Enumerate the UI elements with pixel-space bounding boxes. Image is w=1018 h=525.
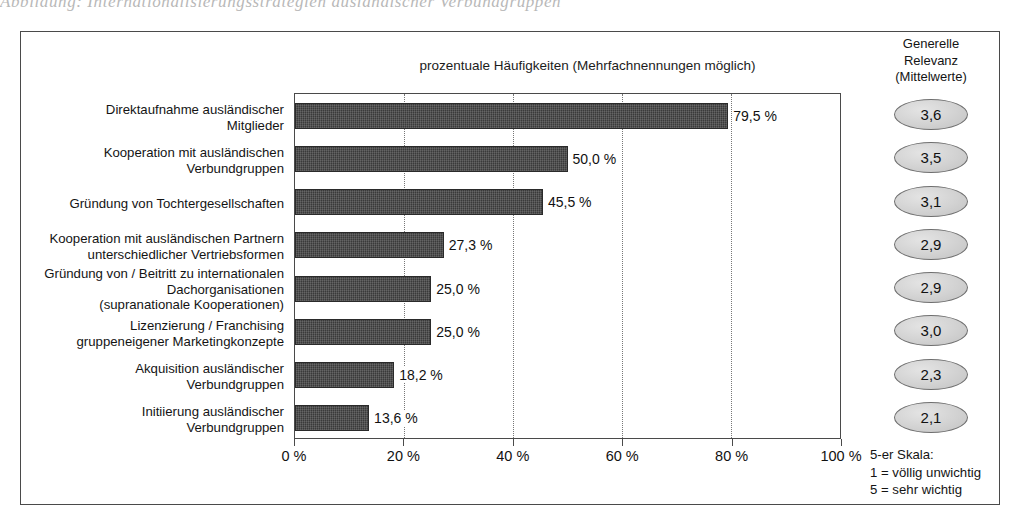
bar	[295, 103, 728, 129]
relevance-value-badge: 2,9	[894, 229, 968, 260]
relevance-value-group: 3,63,53,12,92,93,02,32,1	[866, 93, 996, 439]
bar-value-label: 13,6 %	[373, 410, 419, 426]
x-tick-label: 100 %	[820, 448, 861, 464]
x-tick	[513, 439, 514, 446]
bar-value-label: 45,5 %	[547, 194, 593, 210]
x-tick	[841, 439, 842, 446]
bar	[295, 146, 568, 172]
relevance-cell: 2,9	[866, 223, 996, 266]
category-label: Akquisition ausländischerVerbundgruppen	[19, 361, 284, 392]
bar-value-label: 25,0 %	[435, 281, 481, 297]
relevance-cell: 2,3	[866, 353, 996, 396]
bar	[295, 362, 394, 388]
scale-legend: 5-er Skala: 1 = völlig unwichtig 5 = seh…	[870, 446, 1018, 499]
x-tick	[403, 439, 404, 446]
relevance-cell: 2,1	[866, 396, 996, 439]
category-label: Initiierung ausländischerVerbundgruppen	[19, 404, 284, 435]
category-label: Kooperation mit ausländischenVerbundgrup…	[19, 145, 284, 176]
relevance-column-header: Generelle Relevanz (Mittelwerte)	[866, 36, 996, 86]
relevance-cell: 3,6	[866, 93, 996, 136]
relevance-value-badge: 3,0	[894, 315, 968, 346]
relevance-value-badge: 2,9	[894, 272, 968, 303]
scale-legend-line3: 5 = sehr wichtig	[870, 481, 1018, 499]
relevance-cell: 3,0	[866, 309, 996, 352]
bar-row: 13,6 %	[295, 397, 840, 440]
category-label: Kooperation mit ausländischen Partnernun…	[19, 231, 284, 262]
bar-row: 79,5 %	[295, 94, 840, 137]
category-label: Gründung von Tochtergesellschaften	[19, 196, 284, 212]
relevance-value-badge: 3,1	[894, 186, 968, 217]
plot-area: 79,5 %50,0 %45,5 %27,3 %25,0 %25,0 %18,2…	[294, 93, 841, 439]
relevance-cell: 3,5	[866, 136, 996, 179]
x-axis-tick-labels: 0 %20 %40 %60 %80 %100 %	[294, 448, 841, 468]
x-tick-label: 40 %	[496, 448, 529, 464]
x-tick	[732, 439, 733, 446]
figure-frame: prozentuale Häufigkeiten (Mehrfachnennun…	[20, 31, 1000, 505]
bar	[295, 405, 369, 431]
bar	[295, 189, 543, 215]
x-tick-label: 60 %	[606, 448, 639, 464]
relevance-cell: 3,1	[866, 180, 996, 223]
category-label-group: Direktaufnahme ausländischerMitglieder K…	[21, 93, 290, 439]
category-label: Direktaufnahme ausländischerMitglieder	[19, 102, 284, 133]
x-tick	[622, 439, 623, 446]
category-label: Lizenzierung / Franchisinggruppeneigener…	[19, 318, 284, 349]
bar-row: 25,0 %	[295, 310, 840, 353]
x-tick	[294, 439, 295, 446]
bar	[295, 276, 431, 302]
category-label: Gründung von / Beitritt zu international…	[19, 266, 284, 313]
bar	[295, 319, 431, 345]
scale-legend-line2: 1 = völlig unwichtig	[870, 464, 1018, 482]
bar-row: 50,0 %	[295, 137, 840, 180]
relevance-value-badge: 3,6	[894, 99, 968, 130]
relevance-value-badge: 2,3	[894, 359, 968, 390]
page-bleed-caption: Abbildung: Internationalisierungsstrateg…	[0, 0, 1018, 12]
bar-value-label: 18,2 %	[398, 367, 444, 383]
bar	[295, 232, 444, 258]
bar-row: 25,0 %	[295, 267, 840, 310]
x-axis-ticks	[294, 439, 841, 446]
bar-value-label: 27,3 %	[448, 237, 494, 253]
bar-value-label: 79,5 %	[732, 108, 778, 124]
relevance-header-line2: Relevanz	[866, 53, 996, 70]
bar-value-label: 25,0 %	[435, 324, 481, 340]
relevance-cell: 2,9	[866, 266, 996, 309]
x-tick-label: 0 %	[282, 448, 307, 464]
relevance-header-line3: (Mittelwerte)	[866, 69, 996, 86]
chart-title: prozentuale Häufigkeiten (Mehrfachnennun…	[314, 58, 861, 73]
relevance-header-line1: Generelle	[866, 36, 996, 53]
x-tick-label: 20 %	[387, 448, 420, 464]
bar-row: 45,5 %	[295, 181, 840, 224]
relevance-value-badge: 3,5	[894, 142, 968, 173]
x-tick-label: 80 %	[715, 448, 748, 464]
scale-legend-line1: 5-er Skala:	[870, 446, 1018, 464]
bar-row: 27,3 %	[295, 224, 840, 267]
bar-value-label: 50,0 %	[572, 151, 618, 167]
bar-row: 18,2 %	[295, 354, 840, 397]
relevance-value-badge: 2,1	[894, 402, 968, 433]
